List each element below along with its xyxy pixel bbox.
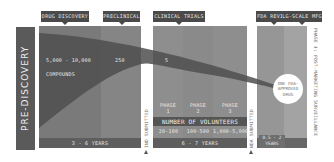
discovery-unit: COMPOUNDS [46,71,75,77]
nda-submitted-label: NDA SUBMITTED [249,100,254,148]
ind-submitted-label: IND SUBMITTED [144,100,149,148]
review-duration: 0.5 - 2 YEARS [259,135,285,148]
discovery-duration: 3 - 6 YEARS [39,138,141,148]
volunteers-header: NUMBER OF VOLUNTEERS [153,117,247,126]
clinical-duration: 6 - 7 YEARS [153,138,247,148]
stage-tag-preclinical: PRECLINICAL [103,11,140,22]
clinical-count: 5 [165,57,168,63]
stage-tag-lg-scale-mfg: LG-SCALE MFG [282,11,322,22]
phase-3-volunteers: 1,000-5,000 [213,128,247,134]
preclinical-count: 250 [115,57,125,63]
discovery-count: 5,000 - 10,000 [46,57,91,63]
stage-tag-clinical-trials: CLINICAL TRIALS [153,11,205,22]
stage-tag-drug-discovery: DRUG DISCOVERY [41,11,89,22]
ind-marker-icon [144,150,148,154]
phase-2-volunteers: 100-500 [184,128,212,134]
phase-1-label: PHASE 1 [157,102,179,114]
nda-marker-icon [249,150,253,154]
phase-2-label: PHASE 2 [187,102,209,114]
phase-1-volunteers: 20-100 [155,128,182,134]
phase-4-label: PHASE 4: POST-MARKETING SURVEILLANCE [313,28,318,148]
approved-drug-circle: ONE FDA- APPROVED DRUG [273,74,303,104]
phase-3-label: PHASE 3 [219,102,241,114]
